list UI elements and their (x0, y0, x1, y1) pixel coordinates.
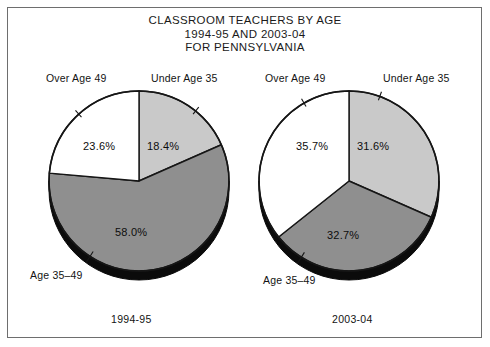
left-label-over-age-49: Over Age 49 (46, 72, 107, 84)
right-chart-caption: 2003-04 (332, 313, 373, 325)
right-value-age-35-49: 32.7% (327, 229, 359, 241)
left-value-over-age-49: 23.6% (83, 140, 115, 152)
right-label-age-35-49: Age 35–49 (263, 274, 316, 286)
left-chart-caption: 1994-95 (111, 313, 152, 325)
right-value-under-age-35: 31.6% (357, 140, 389, 152)
left-value-age-35-49: 58.0% (115, 226, 147, 238)
right-label-over-age-49: Over Age 49 (265, 72, 326, 84)
right-label-under-age-35: Under Age 35 (383, 72, 450, 84)
pie-slice-1994-95-over-age-49 (49, 91, 139, 181)
left-value-under-age-35: 18.4% (147, 140, 179, 152)
right-value-over-age-49: 35.7% (296, 140, 328, 152)
left-label-under-age-35: Under Age 35 (151, 72, 218, 84)
pie-charts-svg (0, 0, 490, 347)
chart-canvas: CLASSROOM TEACHERS BY AGE 1994-95 AND 20… (0, 0, 490, 347)
left-label-age-35-49: Age 35–49 (30, 269, 83, 281)
